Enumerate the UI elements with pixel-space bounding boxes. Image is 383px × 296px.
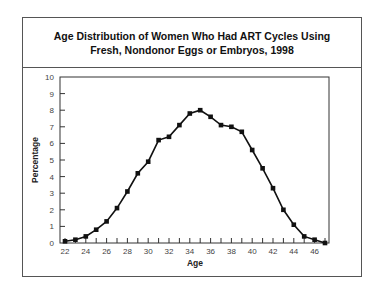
data-point-marker [125,189,130,194]
data-point-marker [250,148,255,153]
y-tick-label: 1 [50,222,55,231]
y-axis-title: Percentage [30,137,40,183]
data-point-marker [156,138,161,143]
data-point-marker [177,123,182,128]
y-tick-label: 4 [50,173,55,182]
data-point-marker [73,237,78,242]
x-tick-label: 24 [81,247,90,256]
data-point-marker [94,227,99,232]
data-point-marker [208,115,213,120]
data-point-marker [84,234,89,239]
data-point-marker [240,130,245,135]
x-tick-label: 32 [165,247,174,256]
data-point-marker [281,208,286,213]
x-tick-label: 34 [185,247,194,256]
y-tick-label: 0 [50,239,55,248]
x-tick-label: 36 [206,247,215,256]
x-tick-label: 30 [144,247,153,256]
data-point-marker [146,159,151,164]
y-tick-label: 5 [50,156,55,165]
data-point-marker [63,239,68,244]
data-point-marker [229,125,234,130]
y-tick-label: 8 [50,106,55,115]
x-tick-label: 26 [102,247,111,256]
x-tick-label: 40 [248,247,257,256]
x-tick-label: 44 [289,247,298,256]
data-point-marker [312,237,317,242]
data-point-marker [188,111,193,116]
x-tick-label: 42 [269,247,278,256]
y-tick-label: 2 [50,206,55,215]
data-point-marker [167,135,172,140]
data-point-marker [115,206,120,211]
x-axis: 22242628303234363840424446 [61,238,325,256]
x-tick-label: 28 [123,247,132,256]
line-chart: 012345678910 22242628303234363840424446 … [0,0,383,296]
y-tick-label: 6 [50,139,55,148]
series-line [65,110,325,243]
x-tick-label: 22 [61,247,70,256]
y-axis: 012345678910 [45,73,65,248]
data-point-marker [302,234,307,239]
data-point-marker [260,166,265,171]
data-point-marker [219,123,224,128]
y-tick-label: 10 [45,73,54,82]
x-tick-label: 46 [310,247,319,256]
y-tick-label: 3 [50,189,55,198]
data-point-marker [323,241,328,246]
y-tick-label: 7 [50,123,55,132]
data-point-marker [136,171,141,176]
x-tick-label: 38 [227,247,236,256]
data-point-marker [271,186,276,191]
data-point-marker [104,219,109,224]
y-tick-label: 9 [50,90,55,99]
data-point-marker [292,222,297,227]
x-axis-title: Age [187,258,203,268]
data-point-marker [198,108,203,113]
